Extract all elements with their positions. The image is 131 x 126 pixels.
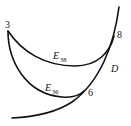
point-label-6: 6 <box>88 88 93 98</box>
curve-label-e36-sub: 36 <box>52 88 59 95</box>
curve-label-e36-main: E <box>45 82 51 93</box>
curve-label-e38-main: E <box>53 50 59 61</box>
curve-label-d: D <box>111 64 118 74</box>
curve-label-e36: E36 <box>45 83 59 93</box>
curve-label-e38-sub: 38 <box>60 56 67 63</box>
geometry-diagram: 3 8 6 D E38 E36 <box>0 0 131 126</box>
point-label-3: 3 <box>5 20 10 30</box>
curve-label-e38: E38 <box>53 51 67 61</box>
point-label-8: 8 <box>117 30 122 40</box>
